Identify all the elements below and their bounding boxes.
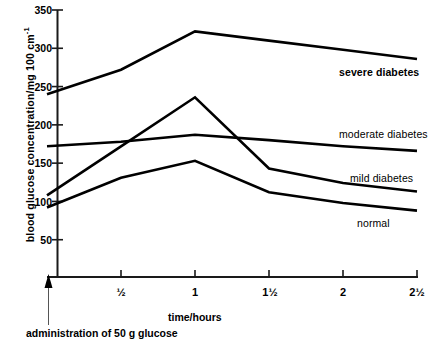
series-line-moderate-diabetes bbox=[47, 135, 417, 151]
series-line-severe-diabetes bbox=[47, 31, 417, 94]
chart-figure: blood glucose concentration/mg 100 cm-1 … bbox=[0, 0, 438, 345]
glucose-administration-arrow bbox=[45, 274, 53, 325]
chart-series-lines bbox=[47, 31, 417, 210]
chart-plot-svg bbox=[0, 0, 438, 345]
